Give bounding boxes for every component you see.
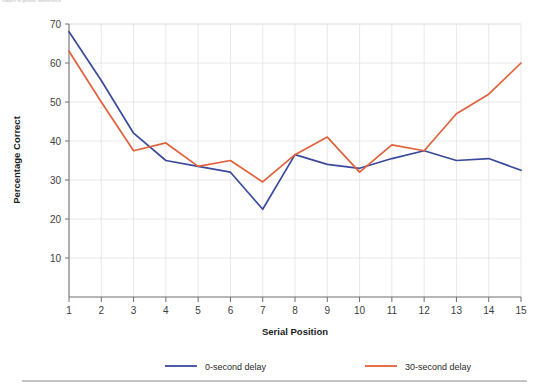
x-tick-label: 4 bbox=[163, 305, 169, 316]
legend-label-0: 0-second delay bbox=[205, 362, 267, 372]
y-tick-label: 30 bbox=[50, 175, 62, 186]
x-axis-ticks: 123456789101112131415 bbox=[66, 297, 527, 316]
x-tick-label: 10 bbox=[354, 305, 366, 316]
y-tick-label: 40 bbox=[50, 136, 62, 147]
y-tick-label: 70 bbox=[50, 19, 62, 30]
x-tick-label: 12 bbox=[419, 305, 431, 316]
gridlines bbox=[69, 24, 521, 297]
y-axis-ticks: 10203040506070 bbox=[50, 19, 69, 264]
line-chart: 10203040506070 123456789101112131415 Per… bbox=[0, 0, 543, 389]
x-axis-title: Serial Position bbox=[262, 326, 328, 337]
x-tick-label: 1 bbox=[66, 305, 72, 316]
x-tick-label: 15 bbox=[515, 305, 527, 316]
x-tick-label: 5 bbox=[195, 305, 201, 316]
x-tick-label: 13 bbox=[451, 305, 463, 316]
y-tick-label: 50 bbox=[50, 97, 62, 108]
x-tick-label: 2 bbox=[99, 305, 105, 316]
x-tick-label: 7 bbox=[260, 305, 266, 316]
x-tick-label: 8 bbox=[292, 305, 298, 316]
y-tick-label: 60 bbox=[50, 58, 62, 69]
x-tick-label: 14 bbox=[483, 305, 495, 316]
x-tick-label: 11 bbox=[387, 305, 398, 316]
y-tick-label: 10 bbox=[50, 253, 62, 264]
x-tick-label: 3 bbox=[131, 305, 137, 316]
y-axis-title: Percentage Correct bbox=[11, 115, 22, 203]
x-tick-label: 6 bbox=[228, 305, 234, 316]
legend-label-1: 30-second delay bbox=[405, 362, 472, 372]
y-tick-label: 20 bbox=[50, 214, 62, 225]
x-tick-label: 9 bbox=[325, 305, 331, 316]
chart-legend: 0-second delay30-second delay bbox=[165, 362, 472, 372]
